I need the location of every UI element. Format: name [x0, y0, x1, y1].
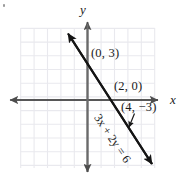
- point-label-0-3: (0, 3): [91, 47, 119, 60]
- graph-canvas: [0, 0, 184, 177]
- x-axis-label: x: [170, 93, 176, 106]
- callout-arrow: [129, 114, 135, 128]
- line-graph-figure: y x (0, 3) (2, 0) (4, −3) 3x + 2y = 6: [0, 0, 184, 177]
- point-label-2-0: (2, 0): [114, 80, 142, 93]
- y-axis-label: y: [80, 3, 86, 16]
- point-label-4-neg3: (4, −3): [121, 101, 157, 114]
